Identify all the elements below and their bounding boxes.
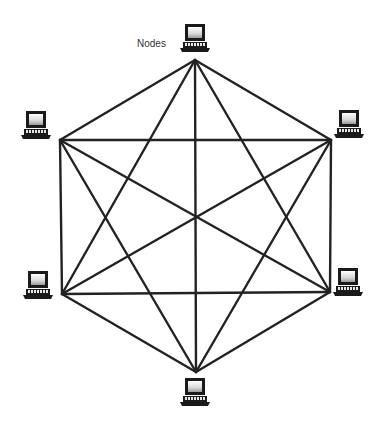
mesh-edges xyxy=(60,60,331,372)
computer-icon-top xyxy=(180,24,210,52)
edge-lower-right-bottom xyxy=(196,292,330,372)
edge-top-upper-left xyxy=(60,60,195,140)
mesh-network-diagram xyxy=(0,0,387,432)
edge-upper-right-lower-right xyxy=(330,140,331,292)
edge-bottom-upper-left xyxy=(60,140,196,372)
computer-icon-upper-left xyxy=(21,111,51,139)
computer-icon-lower-left xyxy=(23,271,53,299)
computer-icon-bottom xyxy=(180,378,210,406)
edge-lower-right-lower-left xyxy=(62,292,330,294)
edge-top-upper-right xyxy=(195,60,331,140)
computer-icon-upper-right xyxy=(334,110,364,138)
nodes-label: Nodes xyxy=(137,38,166,49)
edge-lower-left-upper-left xyxy=(60,140,62,294)
edge-upper-right-bottom xyxy=(196,140,331,372)
edge-bottom-lower-left xyxy=(62,294,196,372)
computer-icon-lower-right xyxy=(333,268,363,296)
